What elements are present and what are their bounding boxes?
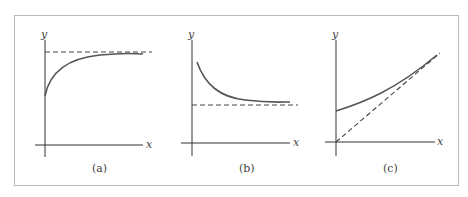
panel-a-curve xyxy=(45,53,143,96)
figure-frame xyxy=(15,16,459,186)
panel-a-y-label: y xyxy=(40,28,48,41)
panel-c: y x (c) xyxy=(325,28,444,175)
panel-b-x-label: x xyxy=(293,136,300,149)
panel-b-curve xyxy=(197,62,290,102)
panel-c-x-label: x xyxy=(437,135,444,148)
panel-b-caption: (b) xyxy=(239,162,255,175)
panel-c-caption: (c) xyxy=(383,162,398,175)
panel-a-caption: (a) xyxy=(92,162,107,175)
panel-b: y x (b) xyxy=(181,28,300,175)
panel-a: y x (a) xyxy=(35,28,153,175)
panel-c-y-label: y xyxy=(331,28,339,41)
panel-c-asymptote xyxy=(336,53,440,142)
panel-c-curve xyxy=(336,55,437,111)
panel-b-y-label: y xyxy=(187,28,195,41)
panel-a-x-label: x xyxy=(146,138,153,151)
figure: y x (a) y x (b) y x (c) xyxy=(0,0,468,197)
